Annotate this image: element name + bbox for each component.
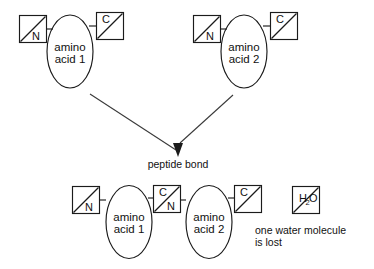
reaction-arrow-left-stem bbox=[90, 94, 176, 150]
n-terminus-label-aa1: N bbox=[32, 30, 40, 42]
water-molecule-box: H 2 O bbox=[293, 187, 320, 214]
amino-acid-2-label-line2: acid 2 bbox=[229, 53, 260, 65]
c-terminus-box-aa2: C bbox=[271, 13, 298, 40]
c-terminus-box-product: C bbox=[235, 186, 262, 213]
peptide-bond-label: peptide bond bbox=[148, 158, 209, 170]
peptide-bond-junction-box: C N bbox=[154, 186, 181, 213]
c-terminus-label-aa2: C bbox=[276, 13, 284, 25]
product-amino-acid-1-label-line1: amino bbox=[113, 211, 144, 223]
n-terminus-box-aa2: N bbox=[194, 16, 221, 43]
c-terminus-label-aa1: C bbox=[102, 13, 110, 25]
amino-acid-1-label-line2: acid 1 bbox=[55, 53, 86, 65]
c-terminus-box-aa1: C bbox=[97, 13, 124, 40]
reaction-arrow-right-stem bbox=[180, 95, 233, 143]
diagram-canvas: N amino acid 1 C N bbox=[0, 0, 374, 269]
n-terminus-label-product: N bbox=[85, 201, 93, 213]
reaction-arrow-head bbox=[173, 143, 183, 157]
n-terminus-box-product: N bbox=[73, 187, 100, 214]
water-formula-o: O bbox=[309, 192, 318, 204]
reactant-amino-acid-2: N amino acid 2 C bbox=[194, 13, 298, 89]
peptide-bond-diagram: N amino acid 1 C N bbox=[0, 0, 374, 269]
n-terminus-box-aa1: N bbox=[20, 16, 47, 43]
product-amino-acid-2-label-line2: acid 2 bbox=[194, 223, 225, 235]
water-caption-line1: one water molecule bbox=[255, 224, 346, 236]
junction-c-label: C bbox=[159, 186, 167, 198]
amino-acid-2-label-line1: amino bbox=[228, 41, 259, 53]
water-caption-line2: is lost bbox=[255, 236, 282, 248]
product-amino-acid-1-label-line2: acid 1 bbox=[114, 223, 145, 235]
junction-n-label: N bbox=[167, 200, 175, 212]
reaction-arrow bbox=[90, 94, 233, 157]
product-dipeptide: N amino acid 1 C N amino acid 2 bbox=[73, 186, 262, 259]
amino-acid-1-label-line1: amino bbox=[54, 41, 85, 53]
n-terminus-label-aa2: N bbox=[206, 30, 214, 42]
reactant-amino-acid-1: N amino acid 1 C bbox=[20, 13, 124, 89]
c-terminus-label-product: C bbox=[240, 186, 248, 198]
product-amino-acid-2-label-line1: amino bbox=[193, 211, 224, 223]
